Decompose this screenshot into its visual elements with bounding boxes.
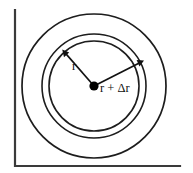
label-outer-radius: r + Δr [100,81,131,95]
figure-container: r r + Δr [0,0,193,173]
center-point-dot [89,81,98,90]
r-radius-line [65,53,94,86]
concentric-circles-diagram: r r + Δr [0,0,193,173]
